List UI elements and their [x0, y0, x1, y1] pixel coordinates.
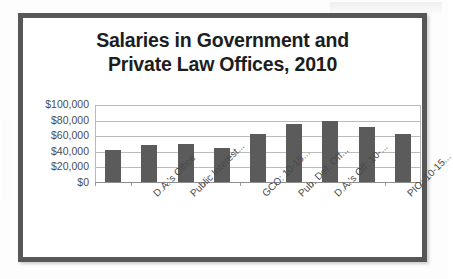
chart-canvas: Salaries in Government and Private Law O… — [23, 18, 422, 257]
y-axis-tick-label: $80,000 — [51, 115, 89, 126]
bar — [105, 150, 121, 182]
chart-frame: Salaries in Government and Private Law O… — [18, 13, 427, 262]
chart-title-line-2: Private Law Offices, 2010 — [23, 52, 422, 76]
bar — [395, 134, 411, 182]
y-axis-tick-label: $20,000 — [51, 161, 89, 172]
y-axis-tick-label: $100,000 — [45, 99, 89, 110]
y-axis-tick-label: $0 — [77, 177, 89, 188]
chart-title: Salaries in Government and Private Law O… — [23, 28, 422, 76]
bar-series — [95, 105, 421, 183]
scan-artifact-left — [2, 120, 16, 200]
bar — [250, 134, 266, 182]
chart-title-line-1: Salaries in Government and — [23, 28, 422, 52]
y-axis-tick-label: $40,000 — [51, 146, 89, 157]
bar — [141, 145, 157, 182]
y-axis-tick-labels: $100,000$80,000$60,000$40,000$20,000$0 — [23, 98, 91, 190]
x-axis-category-labels: D.A.'s OfficePublic Interest...GCO: 10-1… — [95, 185, 425, 260]
plot-area — [95, 105, 421, 183]
y-axis-tick-label: $60,000 — [51, 130, 89, 141]
x-axis-line — [95, 182, 421, 183]
